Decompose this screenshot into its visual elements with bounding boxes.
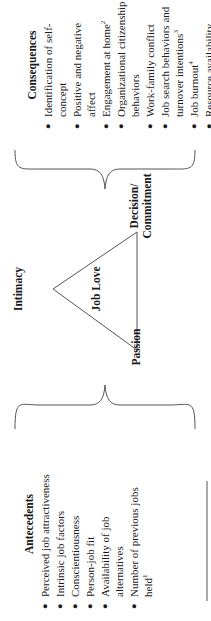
list-item: Job burnout4 bbox=[187, 1, 201, 129]
list-item: Job search behaviors and turnover intent… bbox=[158, 1, 186, 129]
antecedents-brace bbox=[15, 385, 195, 429]
center-label-job-love: Job Love bbox=[90, 257, 103, 321]
list-item: Identification of self-concept bbox=[41, 1, 69, 129]
antecedents-title: Antecedents bbox=[22, 439, 36, 609]
consequences-list: Identification of self-concept Positive … bbox=[41, 1, 211, 129]
list-item: Conscientiousness bbox=[68, 439, 82, 609]
list-item: Number of previous jobs held1 bbox=[127, 487, 155, 609]
list-item: Perceived job attractiveness bbox=[38, 439, 52, 609]
list-item: Intrinsic job factors bbox=[53, 439, 67, 609]
left-label-passion: Passion bbox=[130, 317, 143, 377]
consequences-title: Consequences bbox=[25, 1, 39, 129]
right-label-decision: Decision/ Commitment bbox=[128, 167, 154, 245]
apex-label-intimacy: Intimacy bbox=[12, 259, 25, 319]
antecedents-block: Antecedents Perceived job attractiveness… bbox=[22, 439, 156, 609]
list-item: Work-family conflict bbox=[143, 1, 157, 129]
job-love-diagram: Antecedents Perceived job attractiveness… bbox=[0, 0, 211, 621]
consequences-block: Consequences Identification of self-conc… bbox=[25, 1, 211, 129]
list-item: Engagement at home2 bbox=[99, 1, 113, 129]
list-item: Availability of job alternatives bbox=[98, 487, 126, 609]
list-item: Resource availability bbox=[202, 1, 211, 129]
list-item: Positive and negative affect bbox=[70, 1, 98, 129]
consequences-brace bbox=[15, 150, 195, 189]
list-item: Organizational citizenship behaviors bbox=[114, 1, 142, 129]
list-item: Person-job fit bbox=[83, 439, 97, 609]
antecedents-list: Perceived job attractiveness Intrinsic j… bbox=[38, 439, 155, 609]
